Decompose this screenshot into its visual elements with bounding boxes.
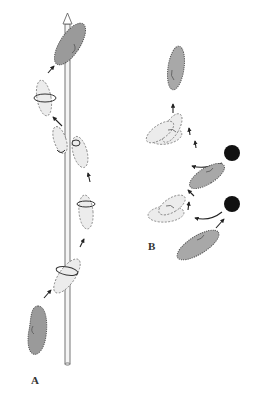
obstacle-lower [224,196,240,212]
panel-a: A [28,13,95,386]
paramecium-middle-b [186,159,228,194]
paramecium-top-b [165,45,187,91]
turning-ghost-cells-lower [147,191,188,223]
paramecium-figure: A [0,0,257,398]
rod-axis [63,13,72,365]
paramecium-bottom-a [28,306,47,354]
panel-b: B [143,45,240,265]
obstacle-upper [224,145,240,161]
arrow-up-icon [63,13,72,24]
paramecium-bottom-b [173,225,223,266]
turning-ghost-cells-upper [143,111,186,147]
spiral-ghost-cells [34,79,95,297]
panel-label-b: B [148,240,156,252]
panel-label-a: A [31,374,39,386]
